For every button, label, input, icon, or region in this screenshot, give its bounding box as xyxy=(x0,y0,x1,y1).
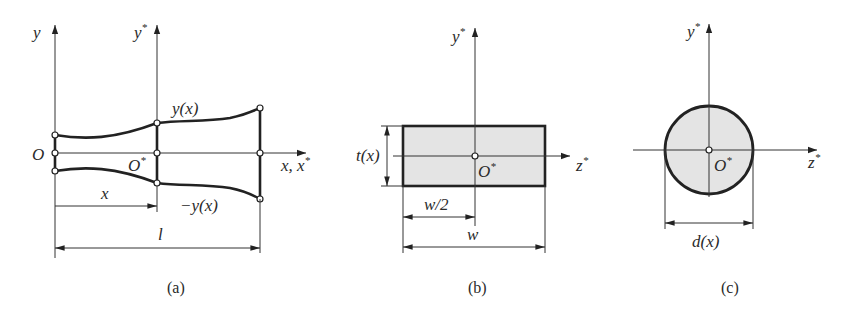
origin-label: O xyxy=(32,145,44,164)
z-star-axis-label: z* xyxy=(807,151,821,172)
upper-profile-label: y(x) xyxy=(170,99,199,118)
panel-c: y* z* O* d(x) (c) xyxy=(633,20,821,297)
node xyxy=(257,150,263,156)
lower-profile-label: −y(x) xyxy=(180,196,218,215)
y-star-axis-label: y* xyxy=(685,20,701,41)
length-dimension-label: l xyxy=(158,225,163,244)
width-dimension-label: w xyxy=(467,225,479,244)
y-axis-label: y xyxy=(31,23,41,42)
node xyxy=(52,150,58,156)
thickness-dimension-label: t(x) xyxy=(356,146,380,165)
node xyxy=(52,132,58,138)
z-star-axis-label: z* xyxy=(575,154,589,175)
panel-c-caption: (c) xyxy=(721,279,739,297)
node xyxy=(154,180,160,186)
node xyxy=(154,150,160,156)
node xyxy=(154,120,160,126)
local-origin-label: O* xyxy=(128,154,146,175)
y-star-axis-label: y* xyxy=(132,21,148,42)
panel-a: y y* x, x* O O* y(x) −y(x) x l xyxy=(31,21,311,297)
panel-b: y* z* O* t(x) w/2 w (b) xyxy=(356,25,589,297)
node xyxy=(52,168,58,174)
beam-cross-section-figure: y y* x, x* O O* y(x) −y(x) x l xyxy=(0,0,852,318)
x-axis-label: x, x* xyxy=(280,154,311,175)
centroid-node xyxy=(706,147,712,153)
y-star-axis-label: y* xyxy=(450,25,466,46)
panel-b-caption: (b) xyxy=(468,279,487,297)
node xyxy=(257,105,263,111)
diameter-dimension-label: d(x) xyxy=(692,232,720,251)
x-dimension-label: x xyxy=(100,184,109,203)
half-width-dimension-label: w/2 xyxy=(424,195,449,214)
centroid-node xyxy=(472,153,478,159)
panel-a-caption: (a) xyxy=(167,279,185,297)
